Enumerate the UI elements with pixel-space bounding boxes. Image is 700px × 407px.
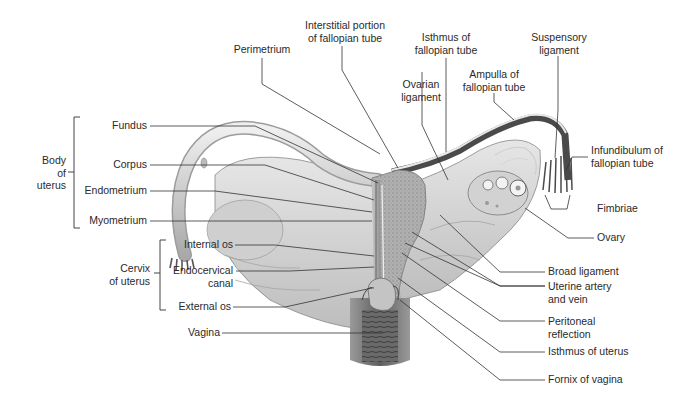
label-fimbriae: Fimbriae xyxy=(597,202,638,215)
label-myometrium: Myometrium xyxy=(70,214,147,227)
label-isthmus-of-fallopian-tube: Isthmus of fallopian tube xyxy=(404,31,488,56)
label-fornix-of-vagina: Fornix of vagina xyxy=(548,373,623,386)
label-endocervical-canal: Endocervical canal xyxy=(160,264,233,289)
label-fundus: Fundus xyxy=(90,119,147,132)
label-vagina: Vagina xyxy=(165,326,220,339)
label-broad-ligament: Broad ligament xyxy=(548,265,619,278)
label-ovarian-ligament: Ovarian ligament xyxy=(396,78,446,103)
label-suspensory-ligament: Suspensory ligament xyxy=(522,31,596,56)
label-endometrium: Endometrium xyxy=(70,184,147,197)
label-interstitial-portion: Interstitial portion of fallopian tube xyxy=(290,19,400,44)
ovary xyxy=(468,171,528,215)
label-uterine-artery-and-vein: Uterine artery and vein xyxy=(548,280,612,305)
label-peritoneal-reflection: Peritoneal reflection xyxy=(548,315,595,340)
label-infundibulum-of-fallopian-tube: Infundibulum of fallopian tube xyxy=(591,144,663,169)
label-corpus: Corpus xyxy=(90,158,147,171)
label-ampulla-of-fallopian-tube: Ampulla of fallopian tube xyxy=(452,68,536,93)
group-label-body-of-uterus: Body of uterus xyxy=(30,154,66,192)
label-perimetrium: Perimetrium xyxy=(222,43,302,56)
group-label-cervix-of-uterus: Cervix of uterus xyxy=(90,262,150,287)
label-internal-os: Internal os xyxy=(165,238,233,251)
bracket-body-of-uterus xyxy=(68,117,80,228)
label-ovary: Ovary xyxy=(597,231,625,244)
label-external-os: External os xyxy=(165,300,231,313)
label-isthmus-of-uterus: Isthmus of uterus xyxy=(548,345,629,358)
